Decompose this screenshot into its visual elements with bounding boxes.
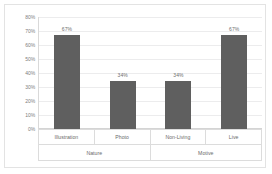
y-axis-tick-label: 80% — [11, 15, 35, 20]
group-row: NatureMotive — [38, 145, 262, 161]
category-label-table: IllustrationPhotoNon-LivingLive NatureMo… — [38, 129, 262, 161]
category-row: IllustrationPhotoNon-LivingLive — [38, 129, 262, 145]
chart-frame: 0%10%20%30%40%50%60%70%80% 67%34%34%67% … — [4, 4, 266, 168]
y-axis-tick-label: 10% — [11, 113, 35, 118]
bar — [221, 35, 247, 129]
bar-data-label: 34% — [103, 73, 143, 78]
bar-data-label: 67% — [47, 27, 87, 32]
plot-area: 67%34%34%67% — [38, 17, 262, 129]
category-label-cell: Live — [205, 129, 262, 145]
bar-data-label: 67% — [214, 27, 254, 32]
y-axis-tick-label: 70% — [11, 29, 35, 34]
y-axis-tick-label: 40% — [11, 71, 35, 76]
y-axis: 0%10%20%30%40%50%60%70%80% — [11, 17, 35, 129]
category-label-cell: Illustration — [38, 129, 94, 145]
y-axis-tick-label: 0% — [11, 127, 35, 132]
y-axis-tick-label: 30% — [11, 85, 35, 90]
category-label-cell: Non-Living — [150, 129, 206, 145]
gridline — [39, 17, 262, 18]
y-axis-tick-label: 50% — [11, 57, 35, 62]
y-axis-tick-label: 60% — [11, 43, 35, 48]
y-axis-tick-label: 20% — [11, 99, 35, 104]
bar — [54, 35, 80, 129]
group-label-cell: Nature — [38, 145, 150, 161]
bar — [110, 81, 136, 129]
category-label-cell: Photo — [94, 129, 150, 145]
bar-data-label: 34% — [158, 73, 198, 78]
bar — [165, 81, 191, 129]
group-label-cell: Motive — [150, 145, 263, 161]
